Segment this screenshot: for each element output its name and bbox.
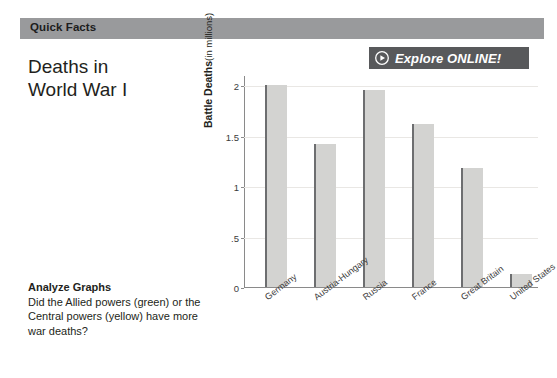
explore-online-button[interactable]: Explore ONLINE! [369,47,529,69]
battle-deaths-bar-chart: Battle Deaths(in millions) 0.511.52 Germ… [208,68,538,368]
analyze-graphs-question: Did the Allied powers (green) or the Cen… [28,295,204,339]
analyze-graphs-heading: Analyze Graphs [28,280,204,295]
gridline [244,187,538,188]
gridline [244,137,538,138]
y-axis-line [244,76,245,288]
y-tick-mark [241,86,244,87]
bar [461,168,483,287]
explore-online-label: Explore ONLINE! [395,51,501,66]
y-axis-title: Battle Deaths(in millions) [202,0,214,128]
y-axis-title-bold: Battle Deaths [202,61,214,128]
y-tick-label: 1.5 [226,131,239,142]
y-tick-label: .5 [231,232,239,243]
bar [412,124,434,287]
y-axis-title-unit: (in millions) [203,13,214,61]
plot-area: 0.511.52 GermanyAustria-HungaryRussiaFra… [244,76,538,288]
y-tick-label: 2 [234,81,239,92]
y-tick-mark [241,137,244,138]
y-tick-mark [241,187,244,188]
play-circle-icon [375,51,389,65]
quick-facts-band: Quick Facts [20,18,544,39]
y-tick-label: 0 [234,283,239,294]
bar [265,85,287,287]
y-tick-mark [241,238,244,239]
gridline [244,238,538,239]
y-tick-label: 1 [234,182,239,193]
y-tick-mark [241,288,244,289]
bar [314,144,336,287]
quick-facts-label: Quick Facts [30,21,96,33]
gridline [244,86,538,87]
analyze-graphs-block: Analyze Graphs Did the Allied powers (gr… [28,280,204,338]
page-title: Deaths inWorld War I [28,55,198,101]
